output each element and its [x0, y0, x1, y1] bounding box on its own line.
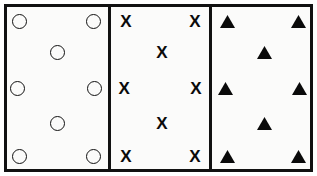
x-mark-icon: X	[118, 14, 134, 30]
open-circle-icon	[86, 14, 101, 29]
x-mark-icon: X	[154, 44, 170, 60]
symbol-array-figure: XXXXXXXX	[0, 0, 317, 176]
panel-divider-right	[209, 4, 212, 172]
open-circle-icon	[12, 149, 27, 164]
filled-triangle-icon	[292, 80, 308, 96]
filled-triangle-icon	[217, 80, 233, 96]
x-mark-icon: X	[118, 148, 134, 164]
open-circle-icon	[10, 81, 25, 96]
filled-triangle-icon	[219, 148, 235, 164]
x-mark-icon: X	[187, 14, 203, 30]
open-circle-icon	[86, 149, 101, 164]
panel-divider-left	[108, 4, 111, 172]
panel-x-marks: XXXXXXXX	[114, 7, 206, 169]
x-mark-icon: X	[116, 80, 132, 96]
filled-triangle-icon	[219, 14, 235, 30]
x-mark-icon: X	[187, 148, 203, 164]
open-circle-icon	[87, 81, 102, 96]
open-circle-icon	[12, 14, 27, 29]
open-circle-icon	[50, 116, 65, 131]
open-circle-icon	[50, 45, 65, 60]
x-mark-icon: X	[188, 80, 204, 96]
filled-triangle-icon	[291, 148, 307, 164]
filled-triangle-icon	[256, 116, 272, 132]
panel-triangles	[215, 7, 310, 169]
panel-circles	[7, 7, 105, 169]
filled-triangle-icon	[256, 44, 272, 60]
filled-triangle-icon	[291, 14, 307, 30]
x-mark-icon: X	[154, 116, 170, 132]
